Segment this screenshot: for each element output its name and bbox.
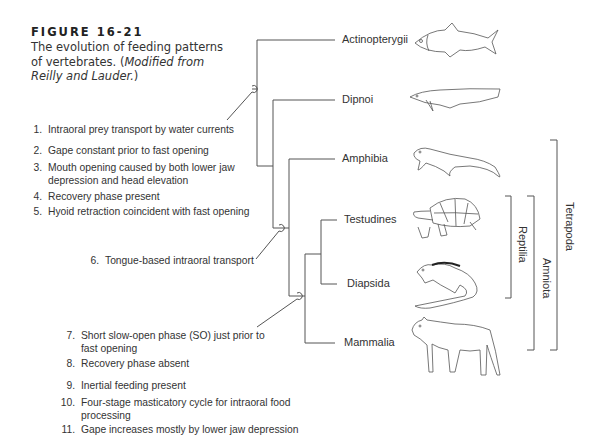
character-9: 9.Inertial feeding present — [57, 380, 186, 393]
character-5: 5.Hyoid retraction coincident with fast … — [24, 206, 249, 219]
character-1: 1.Intraoral prey transport by water curr… — [24, 124, 234, 137]
character-3: 3.Mouth opening caused by both lower jaw… — [24, 162, 235, 187]
iguana-icon — [415, 263, 477, 309]
character-7: 7.Short slow-open phase (SO) just prior … — [57, 330, 265, 355]
taxon-dipnoi: Dipnoi — [342, 93, 373, 105]
lungfish-icon — [410, 89, 500, 111]
fish-icon — [415, 23, 498, 57]
taxon-diapsida: Diapsida — [347, 277, 390, 289]
character-4: 4.Recovery phase present — [24, 191, 160, 204]
taxon-amphibia: Amphibia — [342, 152, 388, 164]
taxon-actinopterygii: Actinopterygii — [342, 33, 408, 45]
taxon-mammalia: Mammalia — [344, 336, 395, 348]
salamander-icon — [414, 148, 500, 177]
character-2: 2.Gape constant prior to fast opening — [24, 145, 209, 158]
taxon-testudines: Testudines — [344, 213, 397, 225]
clade-amniota: Amniota — [541, 258, 553, 298]
tortoise-icon — [414, 198, 481, 238]
character-6: 6.Tongue-based intraoral transport — [81, 255, 254, 268]
clade-tetrapoda: Tetrapoda — [564, 202, 576, 251]
character-8: 8.Recovery phase absent — [57, 358, 189, 371]
character-11: 11.Gape increases mostly by lower jaw de… — [57, 424, 298, 437]
opossum-icon — [412, 317, 500, 375]
cladogram-lines — [0, 0, 600, 437]
character-10: 10.Four-stage masticatory cycle for intr… — [57, 397, 290, 422]
clade-reptilia: Reptilia — [517, 226, 529, 263]
